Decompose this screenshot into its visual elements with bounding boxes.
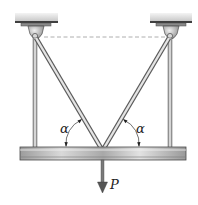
- left-vertical-rod: [33, 38, 37, 148]
- load-label: P: [109, 177, 119, 192]
- left-ceiling-support: [15, 13, 58, 39]
- angle-label-right: α: [136, 121, 145, 136]
- right-ceiling-support: [150, 13, 192, 39]
- horizontal-beam: [20, 147, 186, 160]
- angle-label-left: α: [60, 121, 69, 136]
- right-vertical-rod: [168, 38, 172, 148]
- load-arrow-icon: [98, 160, 108, 193]
- structure-diagram: α α P: [0, 0, 198, 205]
